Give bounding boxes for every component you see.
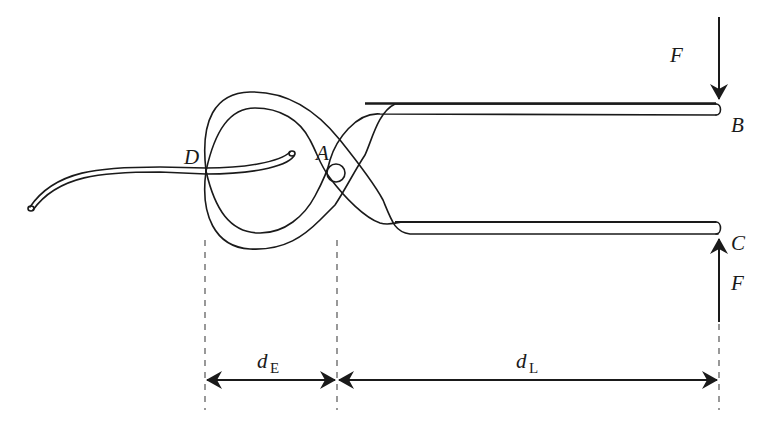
point-label-A: A	[314, 141, 329, 165]
wire	[28, 151, 295, 211]
force-label-top: F	[669, 43, 683, 67]
pivot-circle	[327, 164, 345, 182]
jaws	[205, 92, 721, 249]
svg-text:d: d	[516, 349, 527, 373]
svg-text:d: d	[257, 349, 268, 373]
handle-end-C	[716, 222, 721, 234]
pliers-diagram: F B C F D A d E d L	[0, 0, 771, 438]
force-label-bottom: F	[730, 271, 744, 295]
reference-lines	[205, 240, 719, 410]
dim-label-load: d L	[516, 349, 538, 376]
point-label-B: B	[731, 113, 744, 137]
point-label-C: C	[731, 231, 746, 255]
dim-label-effort: d E	[257, 349, 279, 376]
point-label-D: D	[183, 145, 199, 169]
svg-text:E: E	[270, 360, 279, 376]
wire-end-right	[289, 151, 295, 156]
wire-end-left	[28, 206, 34, 211]
svg-text:L: L	[529, 360, 538, 376]
handle-end-B	[716, 104, 721, 115]
